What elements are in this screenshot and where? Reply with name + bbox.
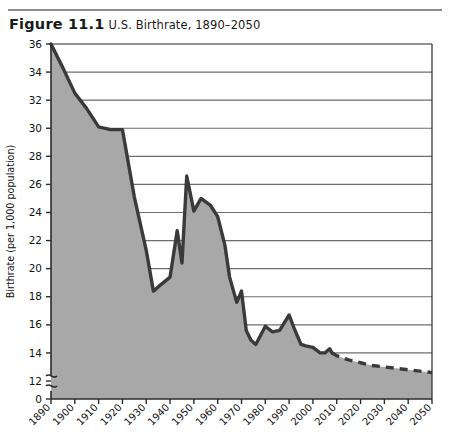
x-tick-label-1910: 1910	[74, 402, 100, 428]
y-tick-label-28: 28	[29, 150, 42, 162]
x-tick-label-1970: 1970	[217, 402, 243, 428]
x-tick-label-1900: 1900	[50, 402, 76, 428]
area-fill	[51, 44, 432, 399]
y-tick-label-30: 30	[29, 122, 42, 134]
x-tick-label-2000: 2000	[289, 402, 315, 428]
x-tick-label-2040: 2040	[384, 402, 410, 428]
x-tick-label-1960: 1960	[193, 402, 219, 428]
y-axis-title: Birthrate (per 1,000 population)	[5, 145, 16, 299]
chart-container: 363432302826242220181614120 189019001910…	[0, 0, 450, 448]
y-tick-labels: 363432302826242220181614120	[29, 38, 51, 405]
x-tick-label-1980: 1980	[241, 402, 267, 428]
y-tick-label-26: 26	[29, 178, 43, 190]
y-tick-label-18: 18	[29, 290, 42, 302]
area-fill-group	[51, 44, 432, 399]
y-tick-label-16: 16	[29, 318, 43, 330]
y-tick-label-0: 0	[35, 393, 42, 405]
y-tick-label-20: 20	[29, 262, 42, 274]
y-tick-label-34: 34	[29, 66, 43, 78]
x-tick-label-1930: 1930	[122, 402, 148, 428]
x-tick-label-2010: 2010	[312, 402, 338, 428]
y-tick-label-14: 14	[29, 347, 43, 359]
x-tick-label-1920: 1920	[98, 402, 124, 428]
x-tick-label-2020: 2020	[336, 402, 362, 428]
x-tick-label-1950: 1950	[170, 402, 196, 428]
birthrate-area-chart: 363432302826242220181614120 189019001910…	[0, 0, 450, 448]
y-tick-label-32: 32	[29, 94, 42, 106]
x-tick-label-1890: 1890	[27, 402, 53, 428]
y-tick-label-12: 12	[29, 375, 42, 387]
y-tick-label-24: 24	[29, 206, 43, 218]
page-footer-ghost	[10, 441, 430, 448]
x-tick-label-2050: 2050	[408, 402, 434, 428]
x-tick-label-1990: 1990	[265, 402, 291, 428]
y-tick-label-22: 22	[29, 234, 42, 246]
y-tick-label-36: 36	[29, 38, 43, 50]
y-axis-title-text: Birthrate (per 1,000 population)	[5, 145, 16, 299]
x-tick-labels: 1890190019101920193019401950196019701980…	[27, 399, 434, 427]
x-tick-label-1940: 1940	[146, 402, 172, 428]
x-tick-label-2030: 2030	[360, 402, 386, 428]
